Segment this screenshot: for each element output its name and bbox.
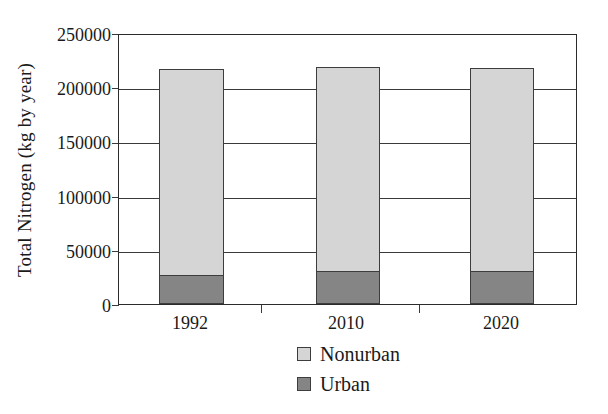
bar-2020[interactable] [470, 68, 534, 304]
bar-segment-urban-2020[interactable] [470, 271, 534, 304]
chart-figure: Total Nitrogen (kg by year) 250000 20000… [0, 0, 608, 414]
x-tick-mark-2 [419, 305, 420, 313]
y-tick-mark-0 [112, 305, 119, 306]
y-tick-label-250000: 250000 [15, 26, 111, 44]
legend-swatch-nonurban-icon [297, 347, 311, 361]
bar-segment-nonurban-2010[interactable] [316, 67, 380, 271]
legend-swatch-urban-icon [297, 377, 311, 391]
y-tick-label-100000: 100000 [15, 189, 111, 207]
chart-legend: Nonurban Urban [297, 341, 400, 396]
bar-segment-nonurban-1992[interactable] [159, 69, 224, 275]
bar-2010[interactable] [316, 67, 380, 304]
bar-1992[interactable] [159, 69, 224, 304]
y-axis-title: Total Nitrogen (kg by year) [8, 20, 42, 320]
legend-item-nonurban[interactable]: Nonurban [297, 341, 400, 366]
bar-segment-nonurban-2020[interactable] [470, 68, 534, 271]
y-tick-label-0: 0 [15, 297, 111, 315]
legend-label-urban: Urban [320, 374, 370, 394]
y-tick-label-150000: 150000 [15, 134, 111, 152]
x-tick-label-2010: 2010 [286, 313, 406, 335]
bar-segment-urban-1992[interactable] [159, 275, 224, 304]
y-tick-label-50000: 50000 [15, 243, 111, 261]
x-tick-label-2020: 2020 [441, 313, 561, 335]
legend-label-nonurban: Nonurban [320, 344, 400, 364]
x-tick-mark-1 [261, 305, 262, 313]
x-tick-label-1992: 1992 [130, 313, 250, 335]
y-tick-label-200000: 200000 [15, 80, 111, 98]
legend-item-urban[interactable]: Urban [297, 371, 400, 396]
bar-segment-urban-2010[interactable] [316, 271, 380, 304]
plot-area [118, 34, 577, 305]
